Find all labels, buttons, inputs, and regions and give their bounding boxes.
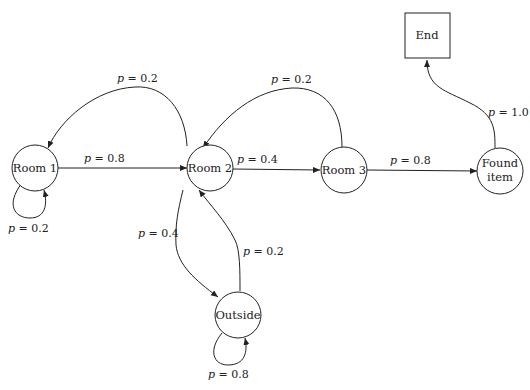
edge-label-outside-room2: p = 0.2: [243, 245, 284, 258]
edge-found-end: [427, 60, 495, 148]
node-room1-label: Room 1: [13, 161, 57, 175]
edge-label-room2-room3: p = 0.4: [237, 153, 278, 166]
edge-label-room2-room1: p = 0.2: [117, 72, 158, 85]
node-found-label-line2: item: [487, 170, 513, 184]
node-room3-label: Room 3: [322, 163, 366, 177]
edge-outside-room2: [199, 190, 240, 291]
edge-label-room3-found: p = 0.8: [390, 154, 431, 167]
edge-room3-found: [367, 170, 477, 171]
node-end-label: End: [415, 28, 439, 42]
edge-label-room2-outside: p = 0.4: [138, 227, 179, 240]
node-found-label-line1: Found: [482, 156, 519, 170]
edge-label-room1-self: p = 0.2: [8, 222, 49, 235]
edge-room3-room2: [203, 88, 342, 148]
edge-room2-room3: [232, 169, 320, 170]
edge-room2-room1: [48, 87, 187, 148]
node-outside-label: Outside: [215, 308, 260, 322]
node-room2-label: Room 2: [188, 161, 232, 175]
state-diagram: Room 1 Room 2 Room 3 Found item Outside …: [0, 0, 530, 390]
edge-label-room3-room2: p = 0.2: [271, 73, 312, 86]
edge-label-outside-self: p = 0.8: [208, 368, 249, 381]
edge-label-room1-room2: p = 0.8: [84, 152, 125, 165]
edge-label-found-end: p = 1.0: [488, 106, 529, 119]
